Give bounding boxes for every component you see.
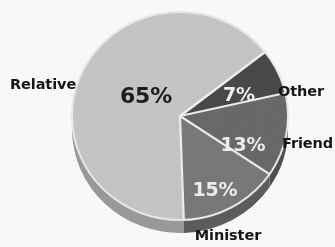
category-label-other: Other — [278, 83, 325, 99]
pie-chart: 65% 7% 13% 15% Relative Other Friend Min… — [0, 0, 335, 247]
slice-value-minister: 15% — [193, 178, 238, 200]
category-label-minister: Minister — [195, 227, 262, 243]
slice-value-relative: 65% — [120, 83, 172, 108]
category-label-friend: Friend — [282, 135, 333, 151]
category-label-relative: Relative — [10, 76, 76, 92]
slice-value-other: 7% — [223, 83, 255, 105]
pie-chart-canvas: 65% 7% 13% 15% Relative Other Friend Min… — [0, 0, 335, 247]
slice-value-friend: 13% — [221, 133, 266, 155]
